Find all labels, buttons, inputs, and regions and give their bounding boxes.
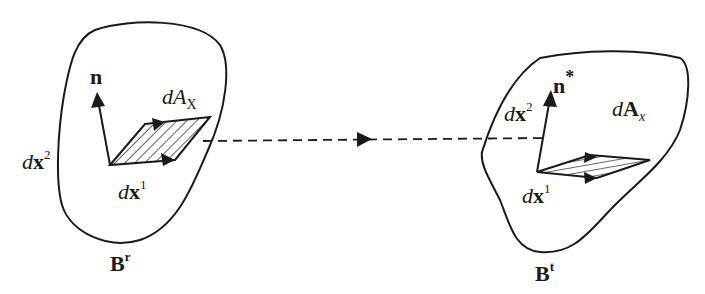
label-dx1-reference: dx1: [118, 180, 147, 203]
label-dx2-current: dx2: [504, 102, 533, 125]
normal-vector-current: [537, 98, 550, 172]
label-dx1-current: dx1: [522, 184, 551, 207]
diagram-graphics: [0, 0, 705, 294]
label-normal-reference: n: [90, 66, 102, 88]
label-body-current: Bt: [535, 262, 554, 285]
label-dx2-reference: dx2: [22, 150, 51, 173]
normal-arrowhead-reference: [91, 92, 105, 108]
body-current-outline: [482, 51, 689, 252]
label-normal-current: n*: [553, 70, 574, 97]
diagram-canvas: n dAX dx2 dx1 Br n* dAx dx2 dx1 Bt: [0, 0, 705, 294]
mapping-dashed-line: [203, 138, 545, 141]
normal-vector-reference: [98, 100, 110, 165]
label-body-reference: Br: [110, 252, 130, 275]
label-area-current: dAx: [612, 98, 645, 120]
mapping-arrowhead: [357, 132, 372, 147]
label-area-reference: dAX: [162, 86, 197, 108]
